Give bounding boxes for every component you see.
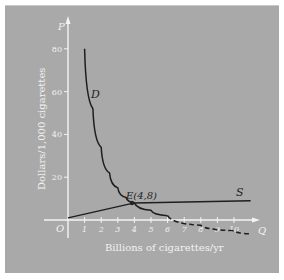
y-tick-label: 80 [52, 45, 62, 54]
x-tick-label: 7 [182, 225, 188, 234]
x-tick-label: 8 [198, 225, 203, 234]
curves [68, 49, 251, 234]
demand-curve-label: D [90, 88, 100, 101]
x-axis-label: Billions of cigarettes/yr [105, 242, 224, 253]
supply-demand-chart: 12345678910 20406080 P Q O Billions of c… [0, 0, 284, 280]
equilibrium-point [130, 201, 134, 205]
x-axis [44, 218, 260, 223]
x-tick-label: 3 [115, 225, 120, 234]
supply-curve-label: S [236, 186, 244, 199]
x-tick-label: 4 [131, 225, 137, 234]
equilibrium-label: E(4,8) [125, 190, 157, 201]
origin-label: O [56, 223, 64, 234]
y-axis-symbol: P [57, 21, 65, 32]
x-tick-label: 6 [165, 225, 170, 234]
y-tick-label: 40 [52, 130, 62, 139]
y-axis-label: Dollars/1,000 cigarettes [36, 68, 47, 190]
x-tick-label: 1 [82, 225, 87, 234]
x-axis-symbol: Q [258, 225, 266, 236]
y-tick-label: 60 [52, 88, 62, 97]
x-tick-label: 2 [98, 225, 104, 234]
x-tick-label: 5 [148, 225, 153, 234]
y-tick-label: 20 [52, 173, 62, 182]
y-ticks: 20406080 [52, 45, 68, 182]
